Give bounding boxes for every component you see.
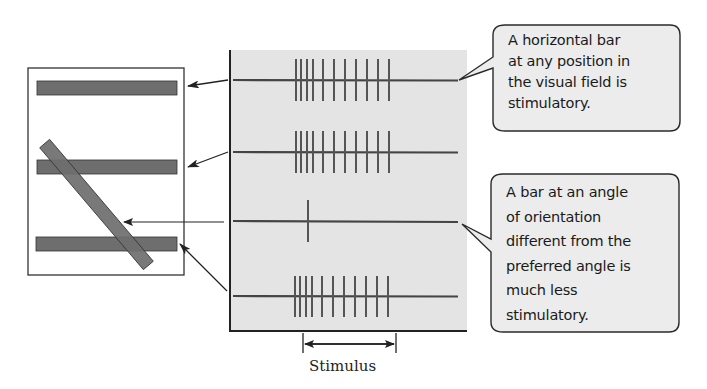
recording-panel <box>229 50 467 332</box>
bar-top <box>37 81 177 95</box>
visual-field <box>28 68 184 275</box>
callout-1-line: the visual field is <box>508 72 630 93</box>
callout-2-line: different from the <box>506 229 631 254</box>
callout-2-line: much less <box>506 278 631 303</box>
callout-1-line: stimulatory. <box>508 93 630 114</box>
bar-bottom <box>36 237 177 251</box>
callout-1-line: A horizontal bar <box>508 30 630 51</box>
stimulus-bracket <box>303 333 396 353</box>
callout-2-line: preferred angle is <box>506 254 631 279</box>
arrow-1 <box>188 80 228 86</box>
arrow-2 <box>188 152 228 167</box>
stimulus-label: Stimulus <box>309 357 376 375</box>
callout-2-line: of orientation <box>506 205 631 230</box>
callout-text-1: A horizontal bar at any position in the … <box>508 30 630 114</box>
callout-2-line: stimulatory. <box>506 303 631 328</box>
callout-text-2: A bar at an angle of orientation differe… <box>506 180 631 327</box>
arrow-4 <box>180 244 227 291</box>
callout-1-line: at any position in <box>508 51 630 72</box>
callout-2-line: A bar at an angle <box>506 180 631 205</box>
